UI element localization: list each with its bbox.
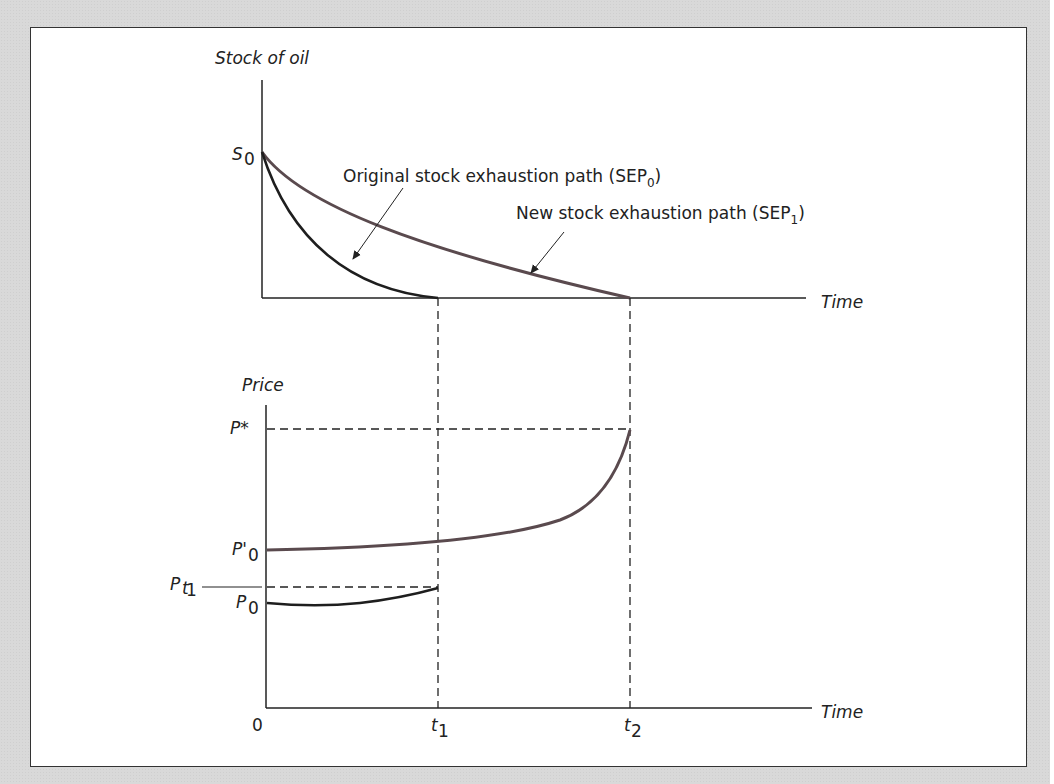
t2-label: t 2 — [624, 715, 642, 741]
svg-text:P: P — [170, 574, 181, 594]
svg-text:P: P — [236, 592, 247, 612]
s0-label: S 0 — [232, 144, 255, 169]
svg-text:0: 0 — [248, 598, 259, 618]
svg-text:0: 0 — [244, 149, 255, 169]
price-chart: Price Time 0 P* P' 0 P t 1 P 0 t — [170, 375, 863, 741]
pstar-label: P* — [230, 418, 249, 438]
svg-text:2: 2 — [631, 721, 642, 741]
svg-text:1: 1 — [438, 721, 449, 741]
sep0-arrow-icon — [353, 188, 403, 259]
stock-axis-label: Stock of oil — [215, 48, 309, 68]
p0-label: P 0 — [236, 592, 259, 618]
price-time-label: Time — [821, 702, 863, 722]
t1-label: t 1 — [431, 715, 449, 741]
p0prime-label: P' 0 — [232, 539, 259, 565]
original-price-path — [267, 588, 438, 605]
origin-label: 0 — [252, 715, 263, 735]
svg-text:Original stock exhaustion path: Original stock exhaustion path (SEP0) — [343, 166, 661, 190]
svg-text:S: S — [232, 144, 243, 164]
pt1-label: P t 1 — [170, 574, 197, 600]
svg-text:0: 0 — [248, 545, 259, 565]
svg-text:New stock exhaustion path (SEP: New stock exhaustion path (SEP1) — [516, 203, 805, 227]
svg-text:P': P' — [232, 539, 247, 559]
new-price-path — [267, 430, 630, 550]
figure: Stock of oil Time S 0 Original stock exh… — [0, 0, 1054, 784]
stock-time-label: Time — [821, 292, 863, 312]
price-axis-label: Price — [242, 375, 284, 395]
svg-text:1: 1 — [186, 580, 197, 600]
stock-chart: Stock of oil Time S 0 Original stock exh… — [215, 48, 863, 312]
sep1-arrow-icon — [531, 232, 564, 273]
sep1-annotation: New stock exhaustion path (SEP1) — [516, 203, 805, 273]
